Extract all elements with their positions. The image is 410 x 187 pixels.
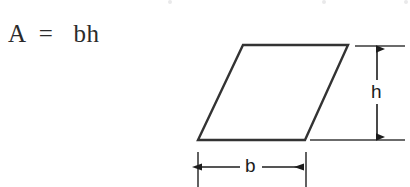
base-label: b <box>245 156 256 175</box>
height-label: h <box>371 82 382 101</box>
figure-page: A = bh h b <box>0 0 410 187</box>
parallelogram-diagram <box>0 0 410 187</box>
parallelogram-shape <box>198 45 348 140</box>
